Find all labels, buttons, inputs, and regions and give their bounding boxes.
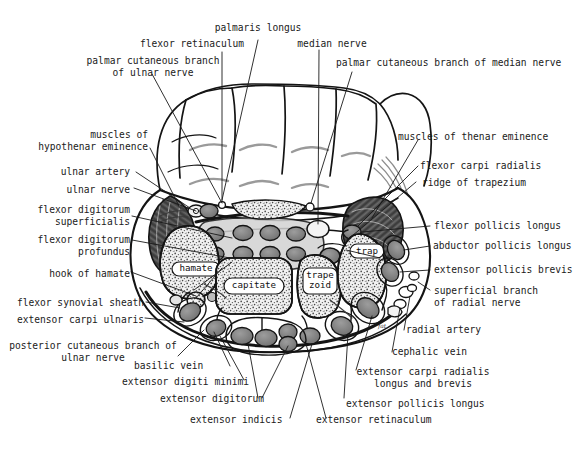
leader-extensor-indicis bbox=[290, 344, 312, 418]
superficial-radial-nerve-b bbox=[408, 285, 417, 292]
ed-tendon-1 bbox=[231, 328, 253, 345]
label-superficial-branch-of-radial-nerve: superficial branch of radial nerve bbox=[434, 285, 576, 308]
ed-tendon-2 bbox=[255, 330, 277, 347]
label-extensor-digiti-minimi: extensor digiti minimi bbox=[122, 376, 282, 388]
label-bone-hamate: hamate bbox=[172, 263, 220, 273]
label-ulnar-artery: ulnar artery bbox=[2, 166, 130, 178]
label-muscles-of-thenar-eminence: muscles of thenar eminence bbox=[398, 131, 576, 143]
ed-tendon-4 bbox=[279, 337, 297, 352]
label-extensor-carpi-radialis-longus-and-brevis: extensor carpi radialis longus and brevi… bbox=[330, 366, 516, 389]
label-flexor-pollicis-longus: flexor pollicis longus bbox=[434, 220, 576, 232]
label-flexor-digitorum-profundus: flexor digitorum profundus bbox=[2, 234, 130, 257]
superficial-radial-nerve-a bbox=[409, 272, 419, 280]
label-ridge-of-trapezium: ridge of trapezium bbox=[422, 177, 576, 189]
basilic-vein-section bbox=[170, 295, 182, 305]
label-bone-capitate: capitate bbox=[224, 280, 284, 290]
label-flexor-synovial-sheath: flexor synovial sheath bbox=[2, 297, 144, 309]
label-median-nerve: median nerve bbox=[248, 38, 416, 50]
label-extensor-retinaculum: extensor retinaculum bbox=[316, 414, 486, 426]
fat-pad-section bbox=[388, 306, 402, 317]
label-palmar-cutaneous-branch-of-ulnar-nerve: palmar cutaneous branch of ulnar nerve bbox=[48, 55, 258, 78]
label-flexor-digitorum-superficialis: flexor digitorum superficialis bbox=[2, 204, 130, 227]
label-abductor-pollicis-longus: abductor pollicis longus bbox=[433, 240, 577, 252]
label-radial-artery: radial artery bbox=[406, 324, 548, 336]
label-hook-of-hamate: hook of hamate bbox=[2, 268, 130, 280]
leader-extensor-digitorum-b bbox=[262, 346, 288, 398]
label-cephalic-vein: cephalic vein bbox=[392, 346, 534, 358]
pcb-median-nerve-dot bbox=[306, 203, 314, 211]
label-flexor-carpi-radialis: flexor carpi radialis bbox=[420, 160, 576, 172]
label-extensor-carpi-ulnaris: extensor carpi ulnaris bbox=[2, 314, 144, 326]
label-palmar-cutaneous-branch-of-median-nerve: palmar cutaneous branch of median nerve bbox=[336, 57, 574, 69]
label-basilic-vein: basilic vein bbox=[134, 360, 254, 372]
label-muscles-of-hypothenar-eminence: muscles of hypothenar eminence bbox=[2, 129, 148, 152]
label-extensor-digitorum: extensor digitorum bbox=[160, 393, 320, 405]
label-fat-pad: fat bbox=[378, 322, 386, 329]
fist-fingers bbox=[157, 84, 431, 198]
label-extensor-pollicis-brevis: extensor pollicis brevis bbox=[434, 264, 576, 276]
label-ulnar-nerve: ulnar nerve bbox=[2, 184, 130, 196]
ulnar-vessels bbox=[188, 204, 218, 218]
label-palmaris-longus: palmaris longus bbox=[176, 22, 340, 34]
label-extensor-pollicis-longus: extensor pollicis longus bbox=[346, 398, 536, 410]
label-bone-trapezium: trap bbox=[350, 246, 384, 256]
figure-canvas: palmaris longus flexor retinaculum media… bbox=[0, 0, 577, 450]
label-bone-trapezoid: trape zoid bbox=[303, 270, 337, 290]
